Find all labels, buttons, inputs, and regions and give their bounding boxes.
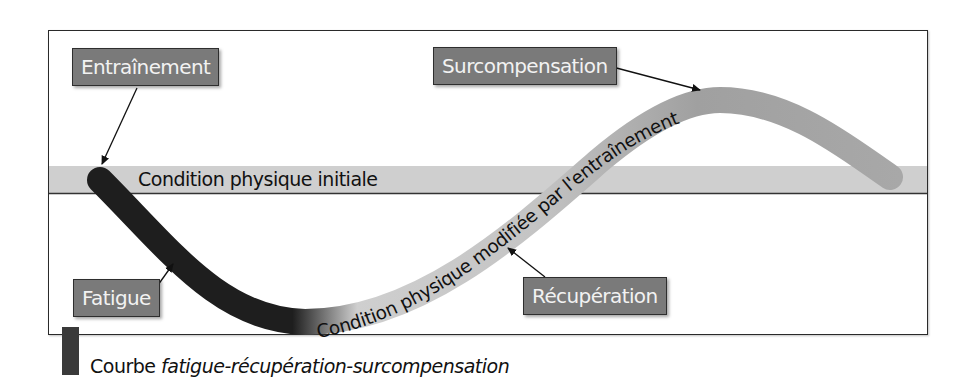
caption-prefix: Courbe xyxy=(90,355,161,377)
fatigue-label: Fatigue xyxy=(73,279,160,317)
training-arrow xyxy=(102,88,137,164)
recovery-label: Récupération xyxy=(523,277,667,315)
baseline-label: Condition physique initiale xyxy=(138,168,378,190)
caption-emphasis: fatigue-récupération-surcompensation xyxy=(161,355,509,377)
supercompensation-arrow xyxy=(605,65,700,90)
recovery-arrow xyxy=(508,248,545,277)
figure-caption: Courbe fatigue-récupération-surcompensat… xyxy=(90,355,509,377)
supercompensation-label: Surcompensation xyxy=(433,47,617,85)
fatigue-recovery-curve xyxy=(100,100,890,322)
training-label: Entraînement xyxy=(72,48,219,86)
legend-swatch xyxy=(62,327,79,375)
